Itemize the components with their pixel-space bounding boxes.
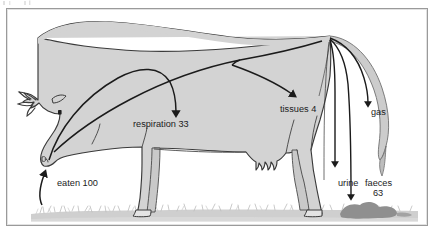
label-faeces: faeces xyxy=(365,178,392,188)
figure-container: respiration 33 tissues 4 gas eaten 100 u… xyxy=(0,0,437,237)
cow-energy-flow-diagram: respiration 33 tissues 4 gas eaten 100 u… xyxy=(0,0,437,237)
cow-eye xyxy=(58,110,62,114)
label-tissues: tissues 4 xyxy=(280,104,316,114)
label-faeces-value: 63 xyxy=(373,188,383,198)
label-urine: urine xyxy=(338,178,358,188)
label-gas: gas xyxy=(371,107,386,117)
scan-artifacts xyxy=(3,1,30,6)
label-respiration: respiration 33 xyxy=(133,119,189,129)
label-eaten: eaten 100 xyxy=(57,178,98,188)
